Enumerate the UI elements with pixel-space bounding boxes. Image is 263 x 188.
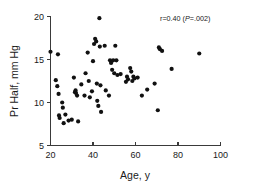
data-point [140, 94, 144, 98]
data-point [114, 58, 118, 62]
data-point [83, 71, 87, 75]
data-point [86, 51, 90, 55]
data-point [113, 44, 117, 48]
y-tick-label-20: 20 [34, 12, 44, 22]
x-axis-title: Age, y [120, 169, 151, 181]
data-point [62, 121, 66, 125]
data-point [98, 45, 102, 49]
data-points-layer [48, 16, 201, 125]
x-tick-label-80: 80 [173, 150, 183, 160]
y-tick-label-15: 15 [34, 55, 44, 65]
data-point [197, 51, 201, 55]
data-point [145, 88, 149, 92]
x-tick-label-20: 20 [45, 150, 55, 160]
data-point [79, 82, 83, 86]
data-point [136, 75, 140, 79]
x-axis-group: 20 40 60 80 100 [45, 142, 228, 161]
data-point [61, 106, 65, 110]
scatter-plot-figure: 20 15 10 5 20 40 60 80 100 Age, y Pr Hal… [0, 0, 263, 188]
annotation-r-part: r=0.40 ( [160, 14, 186, 23]
data-point [58, 116, 62, 120]
data-point [104, 88, 108, 92]
y-axis-group: 20 15 10 5 [34, 12, 51, 151]
y-tick-label-5: 5 [39, 141, 44, 151]
data-point [129, 69, 133, 73]
chart-canvas: 20 15 10 5 20 40 60 80 100 Age, y Pr Hal… [0, 0, 263, 188]
correlation-annotation: r=0.40 (P=.002) [160, 14, 210, 23]
data-point [87, 79, 91, 83]
data-point [107, 94, 111, 98]
data-point [56, 52, 60, 56]
data-point [160, 49, 164, 53]
data-point [94, 39, 98, 43]
data-point [170, 67, 174, 71]
data-point [72, 75, 76, 79]
x-tick-label-40: 40 [88, 150, 98, 160]
data-point [156, 108, 160, 112]
x-tick-label-60: 60 [130, 150, 140, 160]
annotation-p-rest: =.002) [190, 14, 211, 23]
data-point [98, 83, 102, 87]
data-point [76, 119, 80, 123]
data-point [88, 95, 92, 99]
data-point [70, 118, 74, 122]
data-point [126, 77, 130, 81]
data-point [97, 16, 101, 20]
data-point [82, 94, 86, 98]
x-tick-label-100: 100 [213, 150, 228, 160]
data-point [99, 110, 103, 114]
data-point [55, 84, 59, 88]
data-point [153, 81, 157, 85]
y-tick-label-10: 10 [34, 98, 44, 108]
data-point [48, 50, 52, 54]
data-point [95, 81, 99, 85]
data-point [96, 104, 100, 108]
data-point [91, 59, 95, 63]
y-axis-title: Pr Half, mm Hg [8, 45, 20, 117]
data-point [90, 89, 94, 93]
data-point [103, 44, 107, 48]
data-point [60, 100, 64, 104]
data-point [54, 78, 58, 82]
data-point [75, 94, 79, 98]
data-point [63, 112, 67, 116]
data-point [56, 92, 60, 96]
data-point [119, 72, 123, 76]
data-point [95, 99, 99, 103]
